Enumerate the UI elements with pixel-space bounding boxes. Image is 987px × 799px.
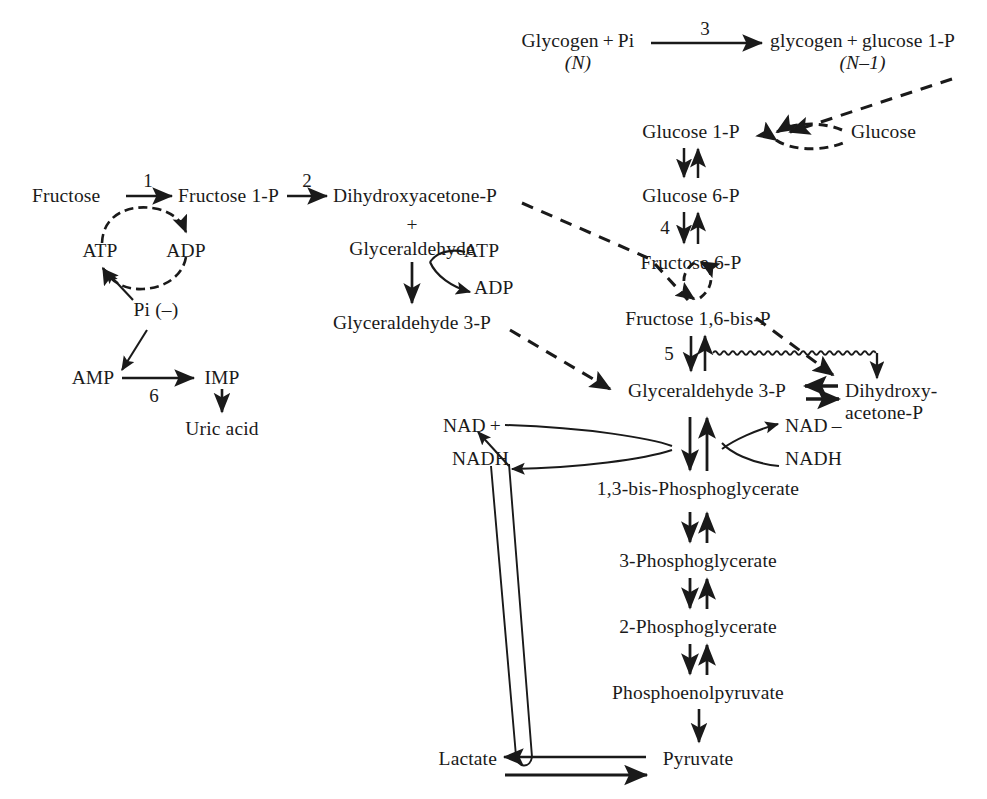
node-dihydroxyacetone-p-right: Dihydroxy- acetone-P <box>845 380 938 424</box>
node-fructose-16-bis-p: Fructose 1,6-bis-P <box>625 308 771 330</box>
node-uric-acid: Uric acid <box>185 418 258 440</box>
node-3-phosphoglycerate: 3-Phosphoglycerate <box>619 550 777 572</box>
arrows-glyceraldehyde3p-13bpg <box>690 417 707 471</box>
step-number-2: 2 <box>302 170 312 192</box>
node-nad-plus: NAD + <box>443 415 501 437</box>
node-adp-mid: ADP <box>474 277 513 299</box>
pathway-diagram: glycogen + glucose 1-P ============ --> <box>0 0 987 799</box>
node-atp-mid: ATP <box>464 240 499 262</box>
curve-nadplus-to-nadh <box>505 425 672 469</box>
node-pi-inhibition: Pi (–) <box>134 299 179 321</box>
step-number-3: 3 <box>700 18 710 40</box>
node-glyceraldehyde-3p-left: Glyceraldehyde 3-P <box>333 312 491 334</box>
node-glyceraldehyde: Glyceraldehyde <box>349 238 475 260</box>
node-2-phosphoglycerate: 2-Phosphoglycerate <box>619 616 777 638</box>
node-13-bis-phosphoglycerate: 1,3-bis-Phosphoglycerate <box>597 478 799 500</box>
node-glycogen-pi: Glycogen + Pi (N) <box>522 30 635 74</box>
node-fructose: Fructose <box>32 185 100 207</box>
arrows-glyceraldehyde3p-dihydroxyacetonep <box>805 386 839 399</box>
arrows-13bpg-3pg <box>690 512 707 543</box>
node-glucose-1p: Glucose 1-P <box>642 121 740 143</box>
step-number-4: 4 <box>660 217 670 239</box>
node-nad-minus: NAD – <box>785 415 842 437</box>
node-plus-sign: + <box>406 214 417 236</box>
wavy-line-to-dihydroxyacetone-p <box>713 351 877 378</box>
node-glycogen-glucose1p-subscript: (N–1) <box>770 52 955 74</box>
node-glyceraldehyde-3p-right: Glyceraldehyde 3-P <box>628 380 786 402</box>
node-glucose: Glucose <box>851 121 916 143</box>
node-glycogen-glucose1p: glycogen + glucose 1-P (N–1) <box>770 30 955 74</box>
arrows-3pg-2pg <box>690 578 707 609</box>
node-phosphoenolpyruvate: Phosphoenolpyruvate <box>612 682 784 704</box>
step-number-6: 6 <box>149 385 159 407</box>
arrows-glucose6p-fructose6p <box>684 212 698 244</box>
dashed-curve-glucose-to-glucose1p <box>776 124 843 149</box>
dashed-arrow-g3p-left-to-g3p-right <box>510 330 610 389</box>
node-fructose-1p: Fructose 1-P <box>178 185 279 207</box>
node-glycogen-pi-subscript: (N) <box>522 52 635 74</box>
arrow-pi-to-amp-imp <box>122 330 147 370</box>
node-lactate: Lactate <box>439 748 497 770</box>
node-nadh-right: NADH <box>785 448 842 470</box>
node-nadh-left: NADH <box>452 448 509 470</box>
node-atp-left: ATP <box>82 240 117 262</box>
arrows-fructose16bisp-glyceraldehyde3p <box>691 336 705 371</box>
node-adp-left: ADP <box>166 240 205 262</box>
loop-lactate-nadh-nadplus <box>478 432 532 766</box>
node-amp: AMP <box>72 367 115 389</box>
dashed-arrow-dhap-to-fructose6p <box>522 203 648 258</box>
arrows-2pg-pep <box>690 644 707 675</box>
pathway-arrows-layer: glycogen + glucose 1-P ============ --> <box>0 0 987 799</box>
arrows-glucose1p-glucose6p <box>684 148 698 178</box>
curve-nadh-to-nad-minus <box>722 424 779 466</box>
node-fructose-6p: Fructose 6-P <box>641 252 742 274</box>
arrow-pi-to-atp <box>105 270 133 300</box>
node-glucose-6p: Glucose 6-P <box>642 185 740 207</box>
step-number-5: 5 <box>664 343 674 365</box>
step-number-1: 1 <box>143 170 153 192</box>
node-dihydroxyacetone-p-left: Dihydroxyacetone-P <box>333 185 497 207</box>
node-pyruvate: Pyruvate <box>663 748 734 770</box>
node-imp: IMP <box>204 367 239 389</box>
